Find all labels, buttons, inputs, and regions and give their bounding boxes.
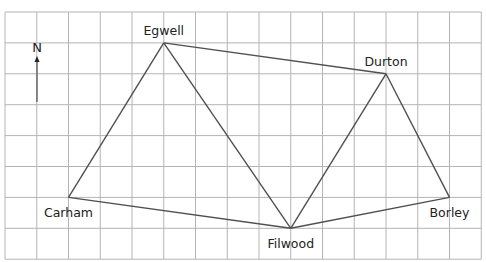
map-canvas: N EgwellDurtonCarhamFilwoodBorley bbox=[0, 0, 486, 262]
route-filwood-durton bbox=[291, 74, 386, 229]
town-label-carham: Carham bbox=[44, 205, 93, 220]
route-carham-egwell bbox=[69, 43, 164, 198]
town-label-durton: Durton bbox=[364, 54, 407, 69]
route-egwell-durton bbox=[164, 43, 386, 74]
north-indicator: N bbox=[32, 40, 42, 102]
town-label-filwood: Filwood bbox=[267, 236, 314, 251]
north-label: N bbox=[32, 40, 42, 55]
route-filwood-borley bbox=[291, 197, 450, 228]
route-carham-filwood bbox=[69, 197, 291, 228]
town-label-borley: Borley bbox=[430, 205, 471, 220]
town-label-egwell: Egwell bbox=[143, 23, 184, 38]
town-labels: EgwellDurtonCarhamFilwoodBorley bbox=[44, 23, 470, 251]
